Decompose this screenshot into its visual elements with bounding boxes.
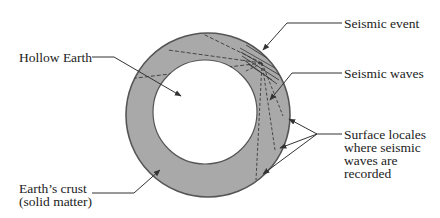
label-surface-locales: Surface locales where seismic waves are … bbox=[344, 128, 426, 180]
label-seismic-event: Seismic event bbox=[344, 17, 419, 30]
seismic-event-leader bbox=[263, 23, 342, 50]
label-seismic-waves: Seismic waves bbox=[344, 67, 424, 80]
surface-locale-leader-1 bbox=[289, 119, 342, 134]
label-earths-crust: Earth’s crust (solid matter) bbox=[19, 182, 92, 208]
surface-locales-line-4: recorded bbox=[344, 167, 426, 180]
earths-crust-line-2: (solid matter) bbox=[19, 195, 92, 208]
label-hollow-earth: Hollow Earth bbox=[19, 51, 92, 64]
